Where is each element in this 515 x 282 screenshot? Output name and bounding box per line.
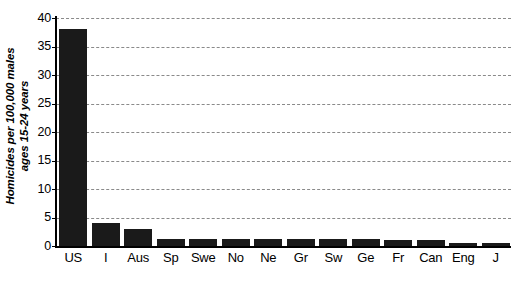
y-axis-tick-label: 5 [24, 211, 51, 224]
y-axis-tick-label: 35 [24, 40, 51, 53]
bar [189, 239, 217, 246]
plot-area [56, 18, 511, 246]
y-axis-tick-label: 10 [24, 183, 51, 196]
y-axis-tick-label: 40 [24, 12, 51, 25]
bar [482, 243, 510, 246]
bar-chart-figure: Homicides per 100,000 males ages 15-24 y… [0, 0, 515, 282]
y-axis-tick-label: 25 [24, 97, 51, 110]
bar [319, 239, 347, 246]
bar [124, 229, 152, 246]
bar [287, 239, 315, 246]
y-axis-tick-label: 15 [24, 154, 51, 167]
x-axis-tick-labels: USIAusSpSweNoNeGrSwGeFrCanEngJ [56, 250, 511, 272]
y-axis-tick-label: 20 [24, 126, 51, 139]
y-axis-tick-labels: 0510152025303540 [24, 11, 51, 251]
bar [222, 239, 250, 246]
bar-series [56, 18, 511, 246]
bar [449, 243, 477, 246]
bar [254, 239, 282, 246]
x-axis-tick-label: J [474, 250, 515, 266]
bar [384, 240, 412, 246]
bar [92, 223, 120, 246]
x-axis-line [55, 246, 511, 248]
y-axis-tick-label: 30 [24, 69, 51, 82]
bar [59, 29, 87, 246]
bar [157, 239, 185, 246]
bar [417, 240, 445, 246]
bar [352, 239, 380, 246]
y-axis-tick-label: 0 [24, 240, 51, 253]
